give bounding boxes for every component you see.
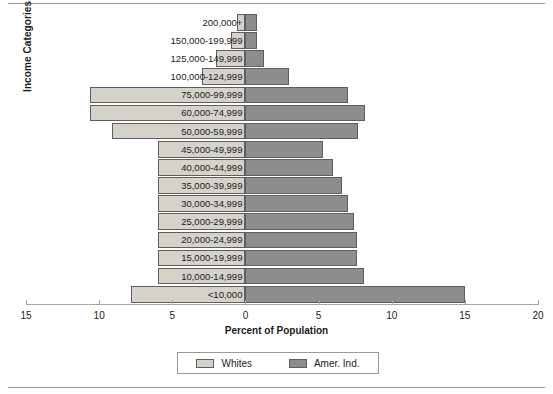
bar-amer-ind: [245, 232, 356, 249]
x-axis-tick: [26, 300, 27, 305]
bar-amer-ind: [245, 68, 289, 85]
bar-amer-ind: [245, 32, 257, 49]
x-axis-tick: [465, 300, 466, 305]
legend-label-whites: Whites: [221, 358, 252, 369]
bar-row: 75,000-99,999: [26, 87, 538, 104]
x-axis-tick-label: 10: [94, 310, 105, 321]
bar-row: 20,000-24,999: [26, 232, 538, 249]
chart-legend: Whites Amer. Ind.: [177, 352, 379, 374]
x-axis-tick: [172, 300, 173, 305]
category-label: 150,000-199,999: [26, 32, 245, 49]
bar-amer-ind: [245, 123, 358, 140]
bar-amer-ind: [245, 141, 323, 158]
bar-amer-ind: [245, 286, 464, 303]
bar-amer-ind: [245, 177, 342, 194]
bar-whites: [90, 105, 245, 122]
bar-whites: [158, 195, 246, 212]
x-axis-tick: [538, 300, 539, 305]
bar-whites: [158, 213, 246, 230]
bar-row: <10,000: [26, 286, 538, 303]
bar-amer-ind: [245, 14, 257, 31]
x-axis-tick: [99, 300, 100, 305]
bar-amer-ind: [245, 213, 353, 230]
x-axis-tick-label: 15: [459, 310, 470, 321]
x-axis-tick: [245, 300, 246, 305]
bar-row: 100,000-124,999: [26, 68, 538, 85]
x-axis-tick-label: 15: [20, 310, 31, 321]
legend-swatch-amer-ind: [289, 359, 307, 368]
bar-whites: [158, 250, 246, 267]
bar-amer-ind: [245, 195, 347, 212]
category-label: 125,000-149,999: [26, 50, 245, 67]
x-axis-tick: [392, 300, 393, 305]
bar-whites: [158, 268, 246, 285]
bar-amer-ind: [245, 105, 365, 122]
category-label: 200,000+: [26, 14, 245, 31]
bar-whites: [237, 14, 246, 31]
bar-whites: [158, 232, 246, 249]
x-axis: 1510505101520: [26, 304, 538, 305]
x-axis-tick-label: 5: [316, 310, 322, 321]
bar-whites: [112, 123, 245, 140]
bar-whites: [131, 286, 245, 303]
bar-whites: [158, 159, 246, 176]
bar-row: 200,000+: [26, 14, 538, 31]
bar-rows: 200,000+150,000-199,999125,000-149,99910…: [26, 14, 538, 304]
bar-row: 125,000-149,999: [26, 50, 538, 67]
bar-amer-ind: [245, 159, 333, 176]
x-axis-tick: [319, 300, 320, 305]
x-axis-tick-label: 10: [386, 310, 397, 321]
bar-row: 40,000-44,999: [26, 159, 538, 176]
bar-row: 25,000-29,999: [26, 213, 538, 230]
figure-top-rule: [8, 3, 545, 4]
bar-whites: [216, 50, 245, 67]
x-axis-tick-label: 20: [532, 310, 543, 321]
chart-figure: Income Categories 200,000+150,000-199,99…: [0, 0, 553, 394]
bar-row: 30,000-34,999: [26, 195, 538, 212]
figure-bottom-rule: [8, 387, 545, 388]
bar-whites: [158, 177, 246, 194]
bar-row: 35,000-39,999: [26, 177, 538, 194]
bar-whites: [202, 68, 246, 85]
x-axis-tick-label: 0: [243, 310, 249, 321]
legend-item-amer-ind: Amer. Ind.: [289, 358, 360, 369]
bar-amer-ind: [245, 250, 356, 267]
bar-row: 45,000-49,999: [26, 141, 538, 158]
bar-whites: [158, 141, 246, 158]
bar-row: 50,000-59,999: [26, 123, 538, 140]
bar-row: 60,000-74,999: [26, 105, 538, 122]
legend-label-amer-ind: Amer. Ind.: [314, 358, 360, 369]
x-axis-tick-label: 5: [170, 310, 176, 321]
plot-area: 200,000+150,000-199,999125,000-149,99910…: [26, 14, 538, 304]
legend-swatch-whites: [196, 359, 214, 368]
x-axis-title: Percent of Population: [0, 325, 553, 336]
bar-amer-ind: [245, 87, 347, 104]
bar-row: 15,000-19,999: [26, 250, 538, 267]
bar-row: 10,000-14,999: [26, 268, 538, 285]
bar-amer-ind: [245, 50, 264, 67]
bar-whites: [231, 32, 246, 49]
bar-amer-ind: [245, 268, 363, 285]
bar-whites: [90, 87, 245, 104]
legend-item-whites: Whites: [196, 358, 252, 369]
bar-row: 150,000-199,999: [26, 32, 538, 49]
